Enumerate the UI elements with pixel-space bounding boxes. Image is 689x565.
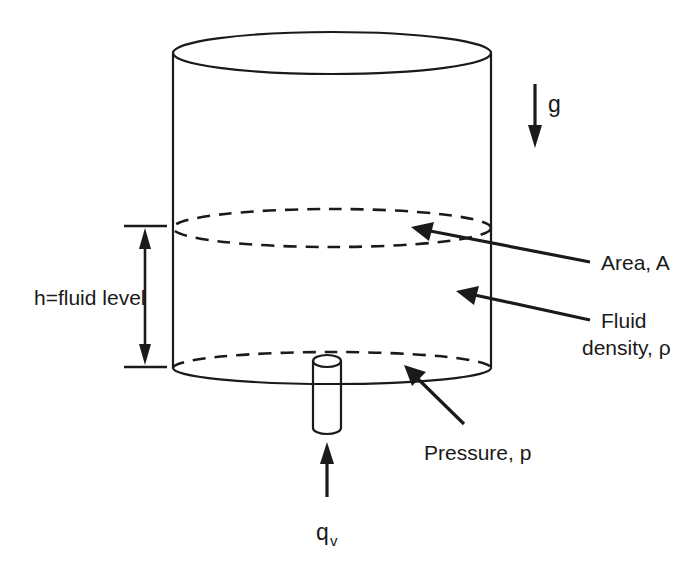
density-leader: Fluid density, ρ xyxy=(456,286,671,359)
flow-label-base: q xyxy=(316,519,329,545)
pipe-top-ellipse xyxy=(313,355,341,367)
fluid-level-ellipse xyxy=(173,209,491,247)
area-leader: Area, A xyxy=(411,222,670,274)
flow-label-subscript: v xyxy=(330,532,338,549)
gravity-arrow-head xyxy=(528,125,542,148)
area-leader-arrowhead xyxy=(411,222,434,241)
fluid-tank-diagram: g h=fluid level Area, A Fluid xyxy=(0,0,689,565)
flow-arrow: q v xyxy=(316,442,338,549)
density-label-line1: Fluid xyxy=(601,309,647,332)
density-label-line2: density, ρ xyxy=(582,336,671,359)
density-leader-arrowhead xyxy=(456,286,479,305)
tank-base-front-arc xyxy=(173,368,491,384)
pressure-leader-line xyxy=(414,375,464,424)
tank-top-ellipse xyxy=(173,32,491,74)
flow-arrow-head xyxy=(320,442,334,464)
fluid-surface xyxy=(173,209,491,247)
dimension-arrowhead-down xyxy=(139,344,151,365)
tank-schematic-svg: g h=fluid level Area, A Fluid xyxy=(0,0,689,565)
fluid-level-dimension: h=fluid level xyxy=(34,226,167,367)
area-leader-line xyxy=(425,230,590,262)
pressure-label: Pressure, p xyxy=(424,441,531,464)
area-label: Area, A xyxy=(601,251,670,274)
fluid-level-label: h=fluid level xyxy=(34,286,146,309)
gravity-arrow: g xyxy=(528,84,561,148)
pressure-leader: Pressure, p xyxy=(404,365,531,464)
pipe-bottom-arc xyxy=(313,428,341,434)
dimension-arrowhead-up xyxy=(139,228,151,249)
outlet-pipe xyxy=(313,355,341,434)
gravity-label: g xyxy=(548,91,561,117)
density-leader-line xyxy=(470,294,590,320)
